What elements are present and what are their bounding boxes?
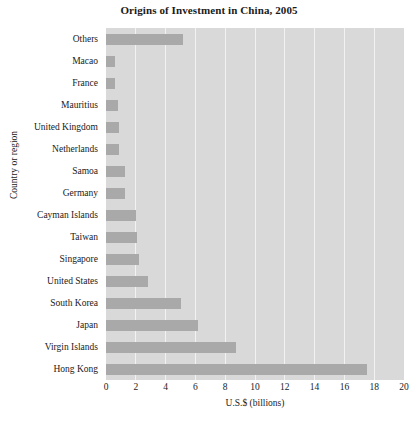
bar-row[interactable] <box>106 336 404 358</box>
bar-row[interactable] <box>106 314 404 336</box>
bar-row[interactable] <box>106 28 404 50</box>
y-axis-label: Hong Kong <box>53 358 98 380</box>
bar-row[interactable] <box>106 204 404 226</box>
x-axis-tick-label: 2 <box>124 382 148 392</box>
y-axis-labels: OthersMacaoFranceMauritiusUnited Kingdom… <box>0 28 102 380</box>
bar[interactable] <box>106 166 125 177</box>
y-axis-label: Macao <box>72 50 98 72</box>
y-axis-label: Others <box>73 28 98 50</box>
x-axis-tick-label: 6 <box>183 382 207 392</box>
bar-row[interactable] <box>106 248 404 270</box>
bar-row[interactable] <box>106 160 404 182</box>
bar[interactable] <box>106 144 119 155</box>
bar[interactable] <box>106 342 236 353</box>
y-axis-label: Virgin Islands <box>45 336 98 358</box>
y-axis-label: Netherlands <box>52 138 98 160</box>
y-axis-label: Germany <box>63 182 98 204</box>
x-axis-tick-label: 18 <box>362 382 386 392</box>
y-axis-label: Cayman Islands <box>37 204 98 226</box>
y-axis-label: France <box>72 72 98 94</box>
chart-container: Origins of Investment in China, 2005 Cou… <box>0 0 418 441</box>
x-axis-tick-label: 12 <box>273 382 297 392</box>
chart-title: Origins of Investment in China, 2005 <box>0 4 418 16</box>
bar[interactable] <box>106 78 115 89</box>
x-axis-title: U.S.$ (billions) <box>106 398 404 408</box>
bar[interactable] <box>106 298 181 309</box>
x-axis-tick-label: 4 <box>154 382 178 392</box>
x-axis-tick-label: 0 <box>94 382 118 392</box>
bar[interactable] <box>106 276 148 287</box>
y-axis-label: Singapore <box>59 248 98 270</box>
bar[interactable] <box>106 254 139 265</box>
x-axis-tick-label: 16 <box>332 382 356 392</box>
y-axis-label: South Korea <box>50 292 98 314</box>
bar-row[interactable] <box>106 72 404 94</box>
bar-row[interactable] <box>106 94 404 116</box>
bar[interactable] <box>106 34 183 45</box>
bar[interactable] <box>106 210 136 221</box>
y-axis-label: United States <box>47 270 98 292</box>
y-axis-label: Samoa <box>72 160 98 182</box>
x-axis-tick-label: 14 <box>303 382 327 392</box>
plot-area <box>106 28 404 380</box>
bar-row[interactable] <box>106 182 404 204</box>
bar-row[interactable] <box>106 270 404 292</box>
bar-row[interactable] <box>106 138 404 160</box>
bar[interactable] <box>106 188 125 199</box>
y-axis-label: Japan <box>76 314 98 336</box>
bar[interactable] <box>106 320 198 331</box>
y-axis-label: United Kingdom <box>34 116 98 138</box>
x-axis-tick-label: 10 <box>243 382 267 392</box>
bar[interactable] <box>106 56 115 67</box>
bar[interactable] <box>106 364 367 375</box>
y-axis-label: Taiwan <box>70 226 98 248</box>
y-axis-label: Mauritius <box>61 94 98 116</box>
x-axis-tick-label: 8 <box>213 382 237 392</box>
bar-row[interactable] <box>106 226 404 248</box>
bar-series <box>106 28 404 380</box>
bar-row[interactable] <box>106 358 404 380</box>
bar-row[interactable] <box>106 50 404 72</box>
x-axis-ticks: 02468101214161820 <box>106 382 404 396</box>
bar-row[interactable] <box>106 292 404 314</box>
bar[interactable] <box>106 122 119 133</box>
x-axis-tick-label: 20 <box>392 382 416 392</box>
bar-row[interactable] <box>106 116 404 138</box>
bar[interactable] <box>106 232 137 243</box>
bar[interactable] <box>106 100 118 111</box>
